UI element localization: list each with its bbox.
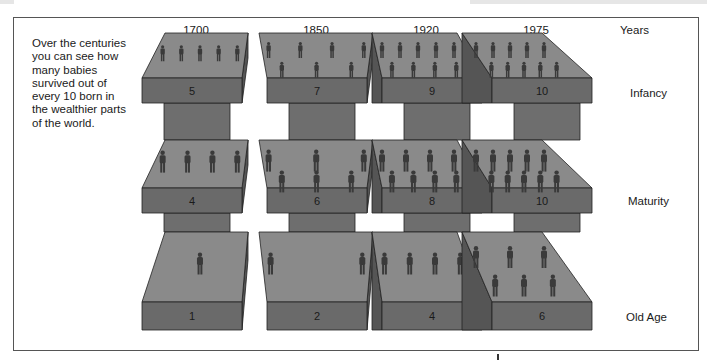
column-1700: 541: [142, 33, 248, 330]
block-top-face: [142, 33, 248, 78]
count-maturity: 4: [189, 195, 195, 207]
pillar: [164, 213, 230, 232]
count-old_age: 6: [539, 310, 545, 322]
count-infancy: 10: [536, 85, 548, 97]
count-old_age: 2: [314, 310, 320, 322]
block-top-face: [142, 140, 248, 188]
column-1850: 762: [259, 33, 373, 330]
column-1975: 10106: [462, 33, 592, 330]
survival-blocks-diagram: 54176298410106: [0, 0, 707, 362]
pillar: [289, 213, 355, 232]
pillar: [164, 103, 230, 140]
count-maturity: 6: [314, 195, 320, 207]
count-maturity: 8: [429, 195, 435, 207]
count-infancy: 9: [429, 85, 435, 97]
pillar: [404, 213, 470, 232]
block-top-face: [142, 232, 248, 302]
count-maturity: 10: [536, 195, 548, 207]
count-infancy: 7: [314, 85, 320, 97]
stray-mark: [497, 354, 499, 360]
pillar: [289, 103, 355, 140]
count-old_age: 1: [189, 310, 195, 322]
pillar: [404, 103, 470, 140]
count-old_age: 4: [429, 310, 435, 322]
pillar: [514, 213, 580, 232]
pillar: [514, 103, 580, 140]
block-top-face: [259, 232, 373, 302]
count-infancy: 5: [189, 85, 195, 97]
